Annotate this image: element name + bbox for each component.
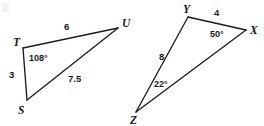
edge-SU xyxy=(27,28,118,100)
edge-TU xyxy=(23,28,118,48)
side-YZ-length: 8 xyxy=(159,51,164,62)
angle-label-T: 108° xyxy=(29,53,48,63)
side-YX-length: 4 xyxy=(214,7,220,18)
side-TS-length: 3 xyxy=(9,69,14,80)
side-SU-length: 7.5 xyxy=(68,73,82,84)
vertex-label-Z: Z xyxy=(129,114,137,126)
angle-label-X: 50° xyxy=(210,29,224,39)
geometry-figure: T U S 6 3 7.5 108° Y X Z 4 8 50° 22° xyxy=(0,0,264,126)
edge-TS xyxy=(23,48,27,100)
side-TU-length: 6 xyxy=(64,21,69,32)
triangle-XYZ: Y X Z 4 8 50° 22° xyxy=(129,3,258,126)
vertex-label-U: U xyxy=(122,17,131,29)
geometry-canvas: T U S 6 3 7.5 108° Y X Z 4 8 50° 22° xyxy=(0,0,264,126)
vertex-label-S: S xyxy=(18,104,24,116)
edge-ZX xyxy=(136,30,246,112)
angle-label-Z: 22° xyxy=(154,79,168,89)
vertex-label-T: T xyxy=(13,36,21,48)
vertex-label-X: X xyxy=(249,24,258,36)
edge-YZ xyxy=(136,17,188,112)
vertex-label-Y: Y xyxy=(183,3,191,15)
triangle-STU: T U S 6 3 7.5 108° xyxy=(9,17,131,116)
